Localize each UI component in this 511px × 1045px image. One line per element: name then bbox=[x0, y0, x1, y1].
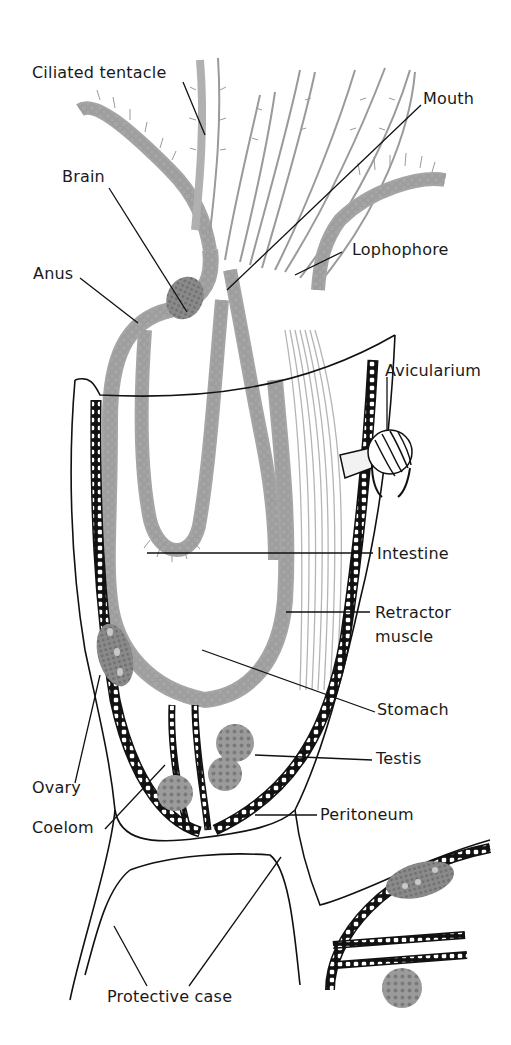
label-avicularium: Avicularium bbox=[385, 362, 481, 380]
avicularium bbox=[340, 430, 412, 497]
gut bbox=[108, 250, 287, 700]
label-stomach: Stomach bbox=[377, 701, 449, 719]
retractor-muscle bbox=[285, 330, 341, 690]
label-lophophore: Lophophore bbox=[352, 241, 449, 259]
ovary bbox=[90, 620, 139, 691]
label-protective-case: Protective case bbox=[107, 988, 232, 1006]
label-peritoneum: Peritoneum bbox=[320, 806, 414, 824]
label-anus: Anus bbox=[33, 265, 73, 283]
label-intestine: Intestine bbox=[377, 545, 449, 563]
label-testis: Testis bbox=[376, 750, 422, 768]
label-retractor-muscle-1: Retractor bbox=[375, 604, 451, 622]
label-brain: Brain bbox=[62, 168, 105, 186]
label-coelom: Coelom bbox=[32, 819, 94, 837]
label-mouth: Mouth bbox=[423, 90, 474, 108]
label-retractor-muscle-2: muscle bbox=[375, 628, 433, 646]
bryozoan-diagram bbox=[0, 0, 511, 1045]
label-ovary: Ovary bbox=[32, 779, 81, 797]
label-ciliated-tentacle: Ciliated tentacle bbox=[32, 64, 167, 82]
leader-lines bbox=[75, 82, 421, 986]
inset-detail bbox=[330, 848, 490, 1008]
